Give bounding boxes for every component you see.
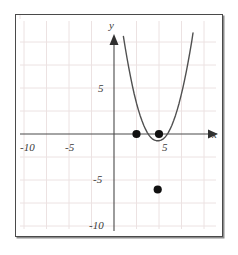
y-axis-arrow-icon	[110, 34, 119, 45]
x-axis-label: x	[211, 128, 217, 140]
figure-page: -10 -5 5 5 -5 -10 x y	[0, 0, 238, 255]
point-x-intercept-left	[132, 130, 140, 138]
y-axis	[110, 34, 119, 231]
y-tick-label-neg5: -5	[93, 173, 103, 185]
x-tick-label-neg10: -10	[20, 141, 35, 153]
y-axis-label: y	[108, 19, 114, 31]
parabola-curve	[123, 33, 193, 141]
y-tick-label-pos5: 5	[98, 82, 104, 94]
x-tick-label-neg5: -5	[65, 141, 75, 153]
graph-frame: -10 -5 5 5 -5 -10 x y	[15, 14, 223, 237]
x-tick-label-pos5: 5	[162, 141, 168, 153]
x-axis	[20, 130, 218, 139]
point-x-intercept-right	[155, 130, 163, 138]
coordinate-plane-graph: -10 -5 5 5 -5 -10 x y	[16, 15, 222, 236]
y-tick-label-neg10: -10	[89, 219, 104, 231]
point-vertex	[154, 185, 162, 193]
grid-lines	[20, 15, 216, 229]
